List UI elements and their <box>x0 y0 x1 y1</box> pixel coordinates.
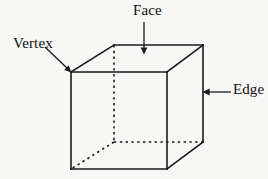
edge-arrow <box>203 89 232 96</box>
face-arrow <box>141 22 148 55</box>
cube-diagram-canvas <box>0 0 268 179</box>
label-edge: Edge <box>233 82 264 97</box>
cube-solid-edges <box>71 45 203 169</box>
label-vertex: Vertex <box>13 36 53 51</box>
edge-connector-bottom-right <box>167 142 203 169</box>
edge-connector-top-left <box>71 45 114 72</box>
cube-hidden-edges <box>71 45 203 169</box>
label-face: Face <box>133 3 162 18</box>
hidden-edge-connector-bottom-left <box>71 142 114 169</box>
face-arrow-head <box>141 47 148 54</box>
cube-diagram-figure: Vertex Face Edge <box>0 0 268 179</box>
edge-connector-top-right <box>167 45 203 72</box>
